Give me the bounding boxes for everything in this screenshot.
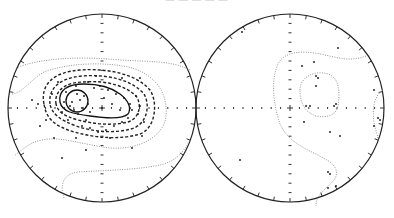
contour-max-right [300,73,339,117]
contour-low-left [12,64,166,156]
contour-low-right [274,52,366,206]
contour-edge-right [373,90,383,140]
poles-left [31,75,145,159]
stereonet-figure [0,0,394,218]
left-stereonet [8,14,196,202]
right-stereonet [196,14,384,206]
poles-right [239,31,381,189]
axis-cross-right [205,23,374,192]
contour-dashed-inner-left [56,82,140,125]
contour-lowest-left-lower [62,140,190,198]
contour-solid-high-left [60,84,130,118]
